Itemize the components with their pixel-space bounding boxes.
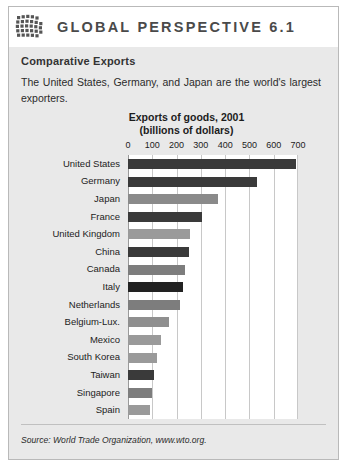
x-tick-label: 400 [218, 140, 233, 150]
bar-row [128, 401, 298, 419]
x-tick-label: 600 [266, 140, 281, 150]
bar-row [128, 278, 298, 296]
category-row: Spain [9, 401, 124, 419]
box-header-title: GLOBAL PERSPECTIVE 6.1 [57, 19, 296, 35]
bar-row [128, 225, 298, 243]
category-label: China [95, 247, 120, 257]
box-intro-text: The United States, Germany, and Japan ar… [21, 74, 321, 106]
category-label: Singapore [77, 388, 120, 398]
source-note: Source: World Trade Organization, www.wt… [21, 435, 207, 445]
category-row: South Korea [9, 349, 124, 367]
x-axis-tick-labels: 0100200300400500600700 [128, 140, 298, 153]
globe-grid-icon [15, 13, 45, 41]
bar [128, 177, 257, 187]
bar [128, 405, 150, 415]
chart-title-line1: Exports of goods, 2001 [129, 111, 245, 123]
bar [128, 159, 296, 169]
box-subtitle: Comparative Exports [21, 55, 135, 67]
category-label: France [90, 212, 120, 222]
bar [128, 265, 185, 275]
bar [128, 317, 169, 327]
bar-series [128, 155, 298, 419]
bar-row [128, 384, 298, 402]
x-tick-label: 700 [290, 140, 305, 150]
category-row: Mexico [9, 331, 124, 349]
category-row: Italy [9, 278, 124, 296]
category-label: South Korea [67, 352, 120, 362]
category-row: Germany [9, 173, 124, 191]
chart-title: Exports of goods, 2001 (billions of doll… [9, 111, 339, 137]
category-row: United States [9, 155, 124, 173]
x-tick-label: 300 [193, 140, 208, 150]
category-label: Taiwan [90, 370, 120, 380]
bar [128, 370, 154, 380]
category-row: Taiwan [9, 366, 124, 384]
category-row: Canada [9, 261, 124, 279]
bar-row [128, 349, 298, 367]
bar [128, 353, 157, 363]
bar [128, 247, 189, 257]
bar [128, 282, 183, 292]
category-labels: United StatesGermanyJapanFranceUnited Ki… [9, 155, 124, 419]
bar-row [128, 173, 298, 191]
category-label: United States [63, 159, 120, 169]
category-label: Italy [103, 282, 120, 292]
category-label: Germany [81, 176, 120, 186]
bar [128, 300, 180, 310]
category-row: China [9, 243, 124, 261]
category-label: Spain [96, 405, 120, 415]
footer-divider [21, 424, 326, 425]
bar-row [128, 261, 298, 279]
category-row: Singapore [9, 384, 124, 402]
category-row: Netherlands [9, 296, 124, 314]
bar-row [128, 190, 298, 208]
screenshot-root: GLOBAL PERSPECTIVE 6.1 Comparative Expor… [0, 0, 347, 467]
bar-row [128, 313, 298, 331]
exports-bar-chart: Exports of goods, 2001 (billions of doll… [9, 111, 339, 431]
category-label: Canada [87, 264, 120, 274]
bar [128, 335, 161, 345]
x-tick-label: 0 [125, 140, 130, 150]
category-row: France [9, 208, 124, 226]
category-row: United Kingdom [9, 225, 124, 243]
box-header: GLOBAL PERSPECTIVE 6.1 [9, 7, 338, 47]
category-label: United Kingdom [52, 229, 120, 239]
category-label: Mexico [90, 335, 120, 345]
bar-row [128, 366, 298, 384]
bar-row [128, 155, 298, 173]
category-label: Netherlands [69, 300, 120, 310]
bar [128, 194, 218, 204]
x-tick-label: 500 [242, 140, 257, 150]
box-body: Comparative Exports The United States, G… [9, 47, 338, 459]
bar-row [128, 331, 298, 349]
global-perspective-box: GLOBAL PERSPECTIVE 6.1 Comparative Expor… [8, 6, 339, 460]
x-tick-label: 100 [145, 140, 160, 150]
category-label: Japan [94, 194, 120, 204]
category-row: Japan [9, 190, 124, 208]
chart-title-line2: (billions of dollars) [33, 124, 339, 137]
bar [128, 229, 190, 239]
bar [128, 388, 152, 398]
bar-row [128, 296, 298, 314]
bar-row [128, 243, 298, 261]
bar-row [128, 208, 298, 226]
bar [128, 212, 202, 222]
plot-area [128, 155, 298, 419]
x-tick-label: 200 [169, 140, 184, 150]
category-row: Belgium-Lux. [9, 313, 124, 331]
category-label: Belgium-Lux. [65, 317, 120, 327]
